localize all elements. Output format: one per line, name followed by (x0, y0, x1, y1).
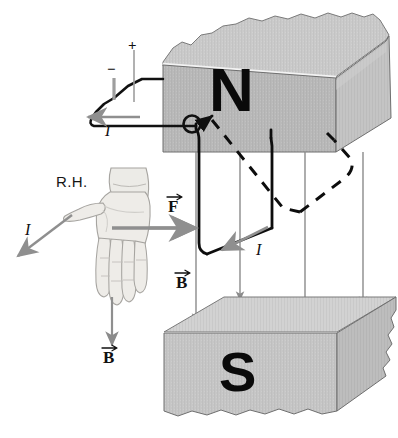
field-vector-letter-loop: B (176, 273, 187, 292)
right-hand-label: R.H. (56, 174, 88, 189)
hand-finger-pinky (134, 241, 147, 293)
north-pole-label: N (209, 59, 254, 121)
hand-palm (96, 192, 150, 244)
battery-positive-label: + (128, 38, 137, 53)
wire-upper-lead (114, 79, 163, 98)
current-label-thumb: I (25, 222, 30, 238)
physics-diagram-right-hand-rule: N S − + R.H. I I I F B (0, 0, 398, 438)
force-vector-label: F (168, 198, 178, 215)
south-pole-label: S (219, 344, 256, 400)
field-vector-label-hand: B (103, 349, 114, 366)
loop-wire-right-vertical (271, 138, 272, 228)
diagram-canvas (0, 0, 398, 438)
force-vector-letter: F (168, 197, 178, 216)
field-vector-label-loop: B (176, 274, 187, 291)
field-vector-letter-hand: B (103, 348, 114, 367)
battery-negative-label: − (107, 62, 116, 77)
current-label-loop-bottom: I (256, 242, 261, 258)
current-label-battery-lead: I (105, 123, 110, 139)
south-magnet-block (164, 297, 396, 416)
